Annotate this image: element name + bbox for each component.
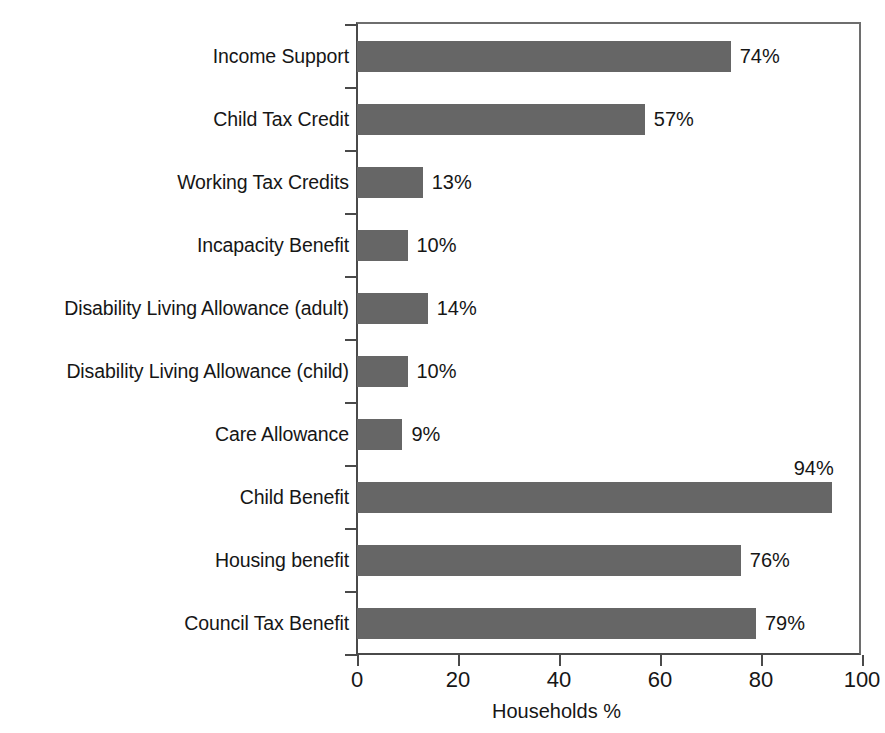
y-axis-tick xyxy=(345,339,357,341)
category-label: Child Tax Credit xyxy=(213,88,349,151)
category-label: Child Benefit xyxy=(240,466,349,529)
bar-value-label: 10% xyxy=(417,230,457,261)
bar xyxy=(357,104,645,135)
category-label: Disability Living Allowance (adult) xyxy=(64,277,349,340)
bar-value-label: 10% xyxy=(417,356,457,387)
bar-value-label: 94% xyxy=(794,453,834,484)
bar-row: Council Tax Benefit79% xyxy=(0,592,885,655)
category-label: Care Allowance xyxy=(215,403,349,466)
x-axis-tick xyxy=(862,655,864,666)
bar-value-label: 74% xyxy=(740,41,780,72)
bar xyxy=(357,167,423,198)
bar xyxy=(357,545,741,576)
category-label: Incapacity Benefit xyxy=(197,214,349,277)
bar xyxy=(357,230,408,261)
bar-value-label: 57% xyxy=(654,104,694,135)
category-label: Council Tax Benefit xyxy=(184,592,349,655)
bar-value-label: 79% xyxy=(765,608,805,639)
x-axis-tick-label: 20 xyxy=(446,667,470,693)
y-axis-tick xyxy=(345,654,357,656)
bar xyxy=(357,482,832,513)
x-axis-tick-label: 80 xyxy=(749,667,773,693)
x-axis-tick-label: 0 xyxy=(351,667,363,693)
bar-chart: Income Support74%Child Tax Credit57%Work… xyxy=(0,0,885,733)
bar-value-label: 9% xyxy=(411,419,440,450)
bar-value-label: 14% xyxy=(437,293,477,324)
x-axis-tick-label: 40 xyxy=(547,667,571,693)
x-axis-tick xyxy=(761,655,763,666)
y-axis-tick xyxy=(345,213,357,215)
category-label: Income Support xyxy=(213,25,349,88)
y-axis-tick xyxy=(345,465,357,467)
x-axis-tick-label: 60 xyxy=(648,667,672,693)
x-axis-title-text: Households % xyxy=(264,700,621,722)
x-axis-tick-label: 100 xyxy=(844,667,881,693)
x-axis-tick xyxy=(660,655,662,666)
bar-row: Care Allowance9% xyxy=(0,403,885,466)
bar-row: Disability Living Allowance (child)10% xyxy=(0,340,885,403)
x-axis-tick xyxy=(458,655,460,666)
bar-value-label: 76% xyxy=(750,545,790,576)
y-axis-tick xyxy=(345,528,357,530)
bar-row: Working Tax Credits13% xyxy=(0,151,885,214)
bar xyxy=(357,41,731,72)
y-axis-tick xyxy=(345,150,357,152)
y-axis-tick xyxy=(345,24,357,26)
bar-row: Income Support74% xyxy=(0,25,885,88)
bar-row: Child Benefit94% xyxy=(0,466,885,529)
category-label: Housing benefit xyxy=(215,529,349,592)
bar-row: Child Tax Credit57% xyxy=(0,88,885,151)
bar xyxy=(357,419,402,450)
category-label: Disability Living Allowance (child) xyxy=(66,340,349,403)
x-axis-title: Households % xyxy=(0,700,885,723)
bar-row: Disability Living Allowance (adult)14% xyxy=(0,277,885,340)
y-axis-tick xyxy=(345,87,357,89)
x-axis-tick xyxy=(559,655,561,666)
bar-row: Housing benefit76% xyxy=(0,529,885,592)
bar xyxy=(357,356,408,387)
category-label: Working Tax Credits xyxy=(177,151,349,214)
bar xyxy=(357,608,756,639)
bar-row: Incapacity Benefit10% xyxy=(0,214,885,277)
y-axis-tick xyxy=(345,276,357,278)
x-axis-tick xyxy=(357,655,359,666)
y-axis-tick xyxy=(345,591,357,593)
y-axis-tick xyxy=(345,402,357,404)
bar xyxy=(357,293,428,324)
bar-value-label: 13% xyxy=(432,167,472,198)
